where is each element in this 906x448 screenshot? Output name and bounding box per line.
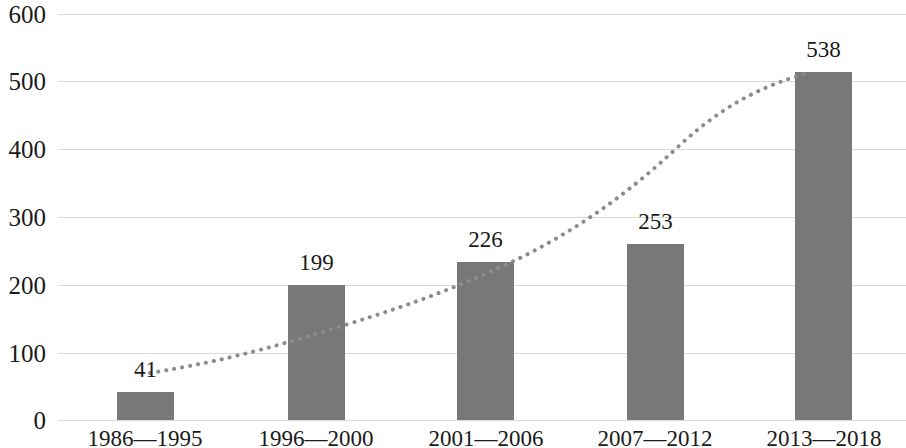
x-axis-tick-2013-2018: 2013—2018 [739,427,906,448]
bar-chart: 600 500 400 300 200 100 0 41 199 226 253… [0,0,906,448]
x-axis-tick-1986-1995: 1986—1995 [60,427,230,448]
x-axis-tick-2007-2012: 2007—2012 [570,427,740,448]
x-axis: 1986—1995 1996—2000 2001—2006 2007—2012 … [0,0,906,448]
x-axis-tick-2001-2006: 2001—2006 [401,427,571,448]
x-axis-tick-1996-2000: 1996—2000 [231,427,401,448]
